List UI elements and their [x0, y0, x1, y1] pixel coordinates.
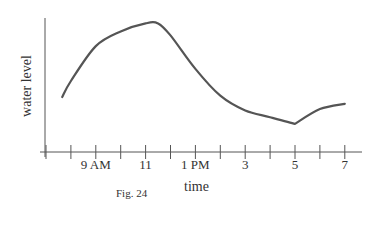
x-tick-label: 3 — [242, 157, 249, 173]
x-axis-label: time — [184, 179, 209, 195]
x-tick-label: 11 — [139, 157, 152, 173]
x-tick-label: 5 — [292, 157, 299, 173]
water-level-curve — [62, 22, 345, 124]
x-tick-label: 9 AM — [81, 157, 111, 173]
figure-caption: Fig. 24 — [116, 187, 147, 199]
x-tick-label: 7 — [342, 157, 349, 173]
y-axis-label: water level — [19, 55, 35, 117]
x-tick-label: 1 PM — [181, 157, 210, 173]
